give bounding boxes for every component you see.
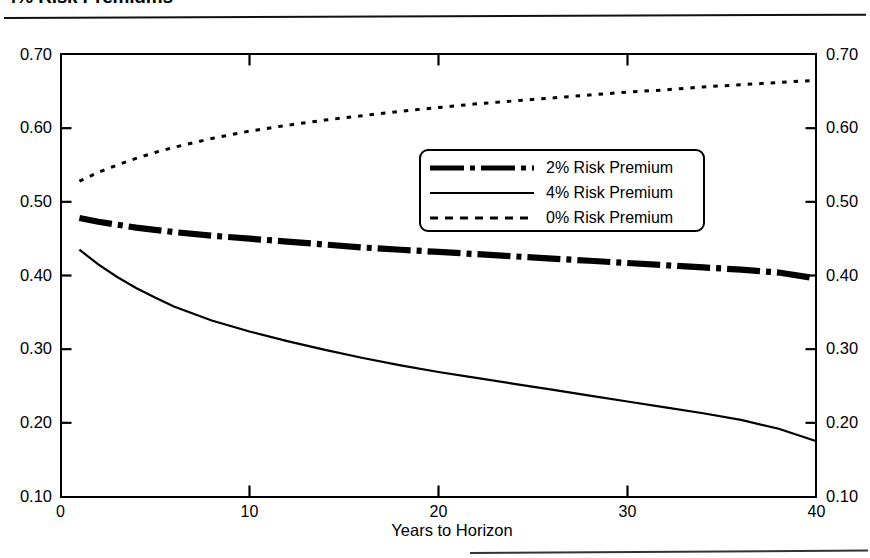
y-axis-tick-right: 0.40 bbox=[826, 267, 858, 284]
chart-legend: 2% Risk Premium 4% Risk Premium 0% Risk … bbox=[419, 149, 705, 232]
y-axis-tick-left: 0.30 bbox=[20, 340, 52, 357]
x-axis-tick: 20 bbox=[430, 503, 448, 520]
legend-item: 4% Risk Premium bbox=[421, 180, 703, 205]
legend-swatch-2pct bbox=[430, 161, 534, 175]
y-axis-tick-right: 0.60 bbox=[826, 119, 858, 136]
x-axis-tick: 30 bbox=[619, 503, 637, 520]
legend-label-2pct: 2% Risk Premium bbox=[546, 159, 673, 176]
y-axis-tick-right: 0.10 bbox=[826, 488, 858, 505]
y-axis-tick-left: 0.40 bbox=[20, 267, 52, 284]
y-axis-tick-left: 0.70 bbox=[20, 46, 52, 63]
legend-swatch-0pct bbox=[430, 211, 534, 225]
legend-item: 0% Risk Premium bbox=[421, 205, 703, 230]
y-axis-tick-right: 0.30 bbox=[826, 340, 858, 357]
data-curves bbox=[0, 0, 870, 558]
y-axis-tick-right: 0.50 bbox=[826, 193, 858, 210]
legend-item: 2% Risk Premium bbox=[421, 155, 703, 180]
line-style-dotted bbox=[430, 216, 534, 219]
chart-figure: 4% Risk Premiums 0.700.600.500.400.300.2… bbox=[0, 0, 870, 558]
legend-swatch-4pct bbox=[430, 186, 534, 200]
x-axis-tick: 40 bbox=[808, 503, 826, 520]
legend-label-4pct: 4% Risk Premium bbox=[546, 184, 673, 201]
series-line bbox=[79, 250, 816, 442]
y-axis-tick-left: 0.50 bbox=[20, 193, 52, 210]
x-axis-title: Years to Horizon bbox=[0, 521, 870, 539]
x-axis-tick: 10 bbox=[241, 503, 259, 520]
x-axis-tick: 0 bbox=[56, 503, 65, 520]
line-style-thin-solid bbox=[430, 192, 534, 194]
line-style-thick-dash-dot bbox=[430, 165, 534, 170]
y-axis-tick-left: 0.20 bbox=[20, 414, 52, 431]
y-axis-tick-right: 0.70 bbox=[826, 46, 858, 63]
legend-label-0pct: 0% Risk Premium bbox=[546, 209, 673, 226]
x-axis-title-text: Years to Horizon bbox=[357, 521, 512, 539]
y-axis-tick-left: 0.60 bbox=[20, 119, 52, 136]
y-axis-tick-left: 0.10 bbox=[20, 488, 52, 505]
y-axis-tick-right: 0.20 bbox=[826, 414, 858, 431]
